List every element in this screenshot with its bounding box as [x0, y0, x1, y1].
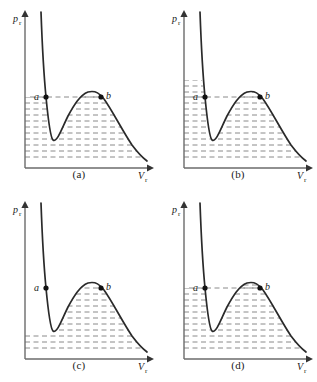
point-b-label: b [265, 281, 270, 292]
panel-c: a b p r V r (c) [0, 191, 158, 382]
point-a-label: a [34, 91, 39, 102]
panel-d-caption: (d) [159, 359, 317, 371]
point-a-label: a [193, 282, 198, 293]
panel-c-caption: (c) [0, 359, 158, 371]
point-b-label: b [106, 90, 111, 101]
y-axis-label: p [12, 204, 18, 215]
point-b-marker [98, 285, 103, 290]
y-axis-label: p [12, 13, 18, 24]
hatch-region-c-lower [25, 336, 150, 348]
y-axis-label: p [171, 204, 177, 215]
point-a-marker [202, 94, 207, 99]
point-a-marker [43, 285, 48, 290]
hatch-region-c-inner [25, 288, 150, 330]
hatch-region-a [25, 97, 150, 157]
figure-van-der-waals-panels: a b p r V r (a) [0, 0, 317, 382]
panel-b: a b p r V r (b) [159, 0, 317, 191]
hatch-region-d [184, 288, 309, 348]
point-b-marker [257, 285, 262, 290]
panel-a-caption: (a) [0, 168, 158, 180]
y-axis-subscript: r [178, 210, 181, 218]
point-b-marker [98, 94, 103, 99]
y-axis-subscript: r [19, 210, 22, 218]
point-b-label: b [265, 90, 270, 101]
y-axis-subscript: r [178, 19, 181, 27]
point-a-marker [202, 285, 207, 290]
panel-d: a b p r V r (d) [159, 191, 317, 382]
point-a-label: a [34, 282, 39, 293]
panel-a: a b p r V r (a) [0, 0, 158, 191]
point-a-marker [43, 94, 48, 99]
point-a-label: a [193, 91, 198, 102]
y-axis-subscript: r [19, 19, 22, 27]
y-axis-label: p [171, 13, 177, 24]
panel-b-caption: (b) [159, 168, 317, 180]
point-b-marker [257, 94, 262, 99]
point-b-label: b [106, 281, 111, 292]
